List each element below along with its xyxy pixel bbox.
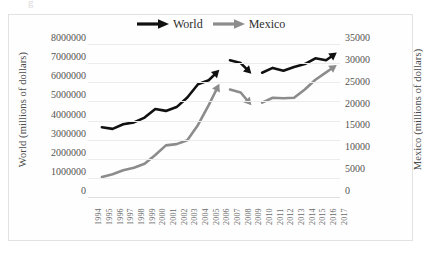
- left-tick-label: 7000000: [30, 51, 86, 63]
- plot-area: [88, 44, 340, 197]
- x-tick-label: 1995: [105, 208, 114, 225]
- gridline: [88, 63, 340, 64]
- gridline: [88, 197, 340, 198]
- x-tick-label: 2009: [254, 208, 263, 225]
- chart-legend: World Mexico: [136, 18, 285, 30]
- right-axis-title: Mexico (millions of dollars): [412, 35, 423, 185]
- x-tick-label: 2005: [212, 208, 221, 225]
- left-tick-label: 8000000: [30, 32, 86, 44]
- gridline: [88, 82, 340, 83]
- x-tick-label: 2015: [318, 208, 327, 225]
- right-tick-label: 30000: [345, 54, 401, 66]
- x-tick-label: 1996: [116, 208, 125, 225]
- x-tick-label: 2010: [265, 208, 274, 225]
- right-tick-label: 35000: [345, 32, 401, 44]
- arrow-right-icon: [136, 18, 170, 30]
- gridline: [88, 159, 340, 160]
- series-line-mexico: [230, 90, 247, 100]
- x-tick-label: 1999: [148, 208, 157, 225]
- series-line-mexico: [262, 69, 331, 102]
- right-tick-label: 10000: [345, 141, 401, 153]
- x-tick-label: 2001: [169, 208, 178, 225]
- legend-entry-mexico: Mexico: [212, 18, 286, 30]
- series-line-world: [230, 60, 246, 68]
- left-tick-label: 3000000: [30, 128, 86, 140]
- x-tick-label: 1994: [94, 208, 103, 225]
- x-tick-label: 2017: [340, 208, 349, 225]
- right-tick-label: 0: [345, 185, 401, 197]
- legend-entry-world: World: [136, 18, 203, 30]
- x-tick-label: 2008: [244, 208, 253, 225]
- right-tick-label: 5000: [345, 163, 401, 175]
- x-tick-label: 2006: [222, 208, 231, 225]
- x-tick-label: 2013: [297, 208, 306, 225]
- gridline: [88, 140, 340, 141]
- left-tick-label: 1000000: [30, 166, 86, 178]
- x-axis-tick-labels: 1994199519961997199819992000200120022003…: [88, 199, 340, 245]
- legend-label-world: World: [173, 18, 203, 30]
- gridline: [88, 178, 340, 179]
- right-tick-label: 15000: [345, 119, 401, 131]
- left-tick-label: 4000000: [30, 109, 86, 121]
- arrow-right-icon: [212, 18, 246, 30]
- x-tick-label: 1998: [137, 208, 146, 225]
- clipped-caption-text: g: [28, 0, 34, 8]
- series-line-world: [262, 57, 331, 73]
- x-tick-label: 2003: [190, 208, 199, 225]
- left-tick-label: 5000000: [30, 89, 86, 101]
- left-tick-label: 6000000: [30, 70, 86, 82]
- gridline: [88, 44, 340, 45]
- gridline: [88, 101, 340, 102]
- figure-container: g World (millions of dollars) Mexico (mi…: [0, 0, 423, 253]
- left-tick-label: 2000000: [30, 147, 86, 159]
- x-tick-label: 1997: [126, 208, 135, 225]
- x-tick-label: 2014: [308, 208, 317, 225]
- right-tick-label: 20000: [345, 98, 401, 110]
- left-tick-label: 0: [30, 185, 86, 197]
- legend-label-mexico: Mexico: [249, 18, 286, 30]
- x-tick-label: 2012: [286, 208, 295, 225]
- x-tick-label: 2004: [201, 208, 210, 225]
- right-tick-label: 25000: [345, 76, 401, 88]
- left-axis-title: World (millions of dollars): [17, 40, 28, 180]
- x-tick-label: 2011: [276, 208, 285, 225]
- series-arrowhead-mexico: [212, 82, 223, 93]
- x-tick-label: 2007: [233, 208, 242, 225]
- x-tick-label: 2000: [158, 208, 167, 225]
- x-tick-label: 2016: [329, 208, 338, 225]
- series-line-mexico: [102, 91, 216, 177]
- gridline: [88, 121, 340, 122]
- x-tick-label: 2002: [180, 208, 189, 225]
